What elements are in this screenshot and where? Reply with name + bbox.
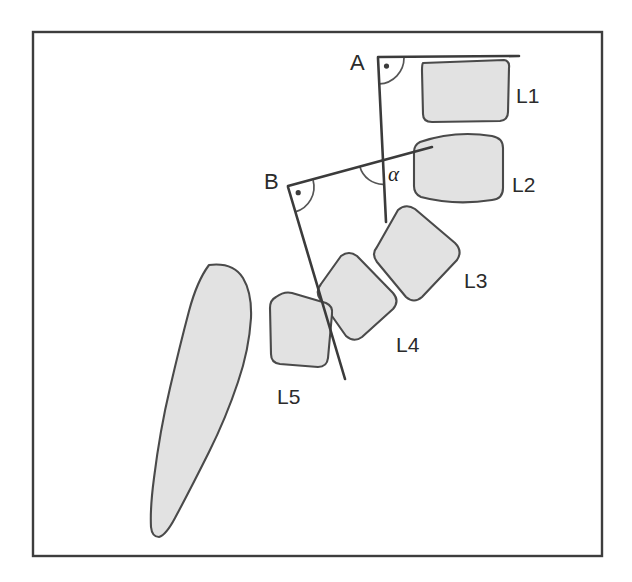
vertebra-label-l5: L5 [277,385,300,408]
right-angle-arc-b [295,180,314,212]
vertebra-label-l2: L2 [512,173,535,196]
vertebra-label-l1: L1 [516,84,539,107]
vertebra-body-l1 [422,60,509,122]
angle-arc-alpha [360,167,384,185]
vertebra-label-l4: L4 [396,333,420,356]
angle-arc-group [295,58,404,212]
right-angle-marker-group [296,63,389,195]
angle-label-alpha: α [388,162,400,186]
vertebra-body-l2 [414,134,503,202]
vertebra-label-l3: L3 [464,269,487,292]
superior-endplate-line-L1 [378,56,519,57]
right-angle-dot-a [384,63,389,68]
figure-canvas: A B α L1 L2 L3 L4 L5 [0,0,632,582]
point-label-b: B [264,169,279,194]
point-label-a: A [350,50,365,75]
lumbar-spine-diagram: A B α L1 L2 L3 L4 L5 [0,0,632,582]
superior-endplate-line-L5 [288,147,432,186]
right-angle-dot-b [296,190,301,195]
sacrum-shape [151,265,251,537]
right-angle-arc-a [379,58,404,84]
